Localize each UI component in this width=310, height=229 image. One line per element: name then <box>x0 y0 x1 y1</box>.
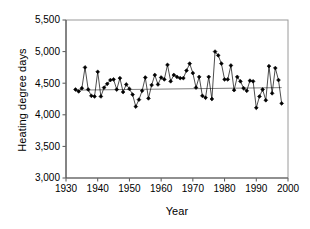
data-point-marker <box>273 66 277 70</box>
data-point-marker <box>96 70 100 74</box>
data-point-marker <box>137 98 141 102</box>
data-point-marker <box>280 102 284 106</box>
data-point-marker <box>121 90 125 94</box>
data-point-marker <box>147 96 151 100</box>
data-point-marker <box>118 76 122 80</box>
data-point-marker <box>156 83 160 87</box>
data-point-marker <box>172 73 176 77</box>
data-point-marker <box>74 88 78 92</box>
y-tick-label: 5,000 <box>35 46 60 57</box>
x-tick-label: 1990 <box>245 183 268 194</box>
plot-frame <box>66 20 288 178</box>
x-axis-ticks: 19301940195019601970198019902000 <box>55 178 300 194</box>
data-point-marker <box>188 62 192 66</box>
data-point-marker <box>191 71 195 75</box>
data-point-marker <box>207 75 211 79</box>
data-point-marker <box>220 62 224 66</box>
data-point-marker <box>169 79 173 83</box>
y-axis-title: Heating degree days <box>16 20 30 180</box>
x-tick-label: 1930 <box>55 183 78 194</box>
data-point-marker <box>204 96 208 100</box>
data-point-marker <box>270 91 274 95</box>
data-point-marker <box>134 105 138 109</box>
x-tick-label: 2000 <box>277 183 300 194</box>
data-point-marker <box>258 95 262 99</box>
data-point-marker <box>197 75 201 79</box>
y-tick-label: 3,500 <box>35 141 60 152</box>
data-point-marker <box>89 94 93 98</box>
data-point-marker <box>143 76 147 80</box>
y-tick-label: 3,000 <box>35 172 60 183</box>
data-point-marker <box>251 79 255 83</box>
data-point-marker <box>248 79 252 83</box>
x-tick-label: 1980 <box>213 183 236 194</box>
data-point-marker <box>162 78 166 82</box>
x-axis-title: Year <box>66 205 288 217</box>
data-point-marker <box>210 97 214 101</box>
data-point-marker <box>112 78 116 82</box>
data-point-marker <box>254 106 258 110</box>
x-tick-label: 1940 <box>87 183 110 194</box>
data-point-marker <box>181 76 185 80</box>
data-point-marker <box>153 73 157 77</box>
data-point-marker <box>99 95 103 99</box>
data-point-marker <box>232 88 236 92</box>
data-point-marker <box>226 78 230 82</box>
data-point-marker <box>267 64 271 68</box>
x-tick-label: 1960 <box>150 183 173 194</box>
trendline <box>76 88 282 91</box>
chart-plot: 3,0003,5004,0004,5005,0005,500 193019401… <box>0 0 310 229</box>
y-tick-label: 4,500 <box>35 78 60 89</box>
data-point-marker <box>229 64 233 68</box>
data-point-marker <box>115 88 119 92</box>
y-axis-ticks: 3,0003,5004,0004,5005,0005,500 <box>35 14 66 183</box>
y-tick-label: 5,500 <box>35 14 60 25</box>
x-tick-label: 1950 <box>118 183 141 194</box>
data-point-marker <box>159 76 163 80</box>
chart-figure: 3,0003,5004,0004,5005,0005,500 193019401… <box>0 0 310 229</box>
data-point-marker <box>86 88 90 92</box>
data-point-marker <box>83 66 87 70</box>
data-point-markers <box>74 50 284 110</box>
data-point-marker <box>93 95 97 99</box>
data-point-marker <box>264 98 268 102</box>
y-tick-label: 4,000 <box>35 109 60 120</box>
x-tick-label: 1970 <box>182 183 205 194</box>
data-point-marker <box>150 83 154 87</box>
data-point-marker <box>277 78 281 82</box>
data-point-marker <box>131 93 135 97</box>
data-point-marker <box>200 94 204 98</box>
data-point-marker <box>166 63 170 67</box>
data-point-marker <box>185 69 189 73</box>
